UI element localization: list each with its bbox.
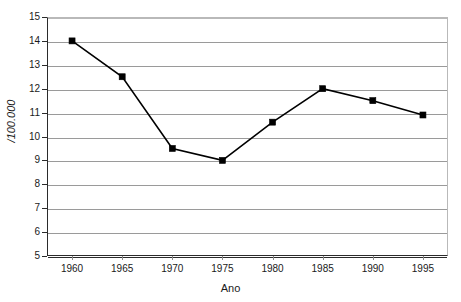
data-point-marker <box>370 98 376 104</box>
y-tick-label: 7 <box>16 203 40 213</box>
y-tick-label: 5 <box>16 251 40 261</box>
series-markers <box>69 38 426 163</box>
x-axis-title: Ano <box>0 282 461 294</box>
x-tick-mark <box>122 256 123 260</box>
x-tick-mark <box>373 256 374 260</box>
y-tick-label: 13 <box>16 60 40 70</box>
x-tick-mark <box>273 256 274 260</box>
series-layer <box>47 17 448 256</box>
y-axis-title: /100.000 <box>5 81 17 161</box>
x-tick-label: 1995 <box>403 263 443 274</box>
data-point-marker <box>69 38 75 44</box>
x-tick-label: 1990 <box>353 263 393 274</box>
y-tick-label: 10 <box>16 132 40 142</box>
data-point-marker <box>219 157 225 163</box>
x-tick-label: 1975 <box>202 263 242 274</box>
x-tick-mark <box>222 256 223 260</box>
x-tick-label: 1985 <box>303 263 343 274</box>
line-chart: 56789101112131415 1960196519701975198019… <box>0 0 461 302</box>
x-tick-mark <box>72 256 73 260</box>
x-tick-label: 1970 <box>152 263 192 274</box>
y-tick-label: 14 <box>16 36 40 46</box>
y-tick-label: 6 <box>16 227 40 237</box>
data-point-marker <box>169 145 175 151</box>
x-tick-label: 1960 <box>52 263 92 274</box>
data-point-marker <box>420 112 426 118</box>
y-tick-label: 8 <box>16 179 40 189</box>
data-point-marker <box>119 74 125 80</box>
x-tick-mark <box>172 256 173 260</box>
y-tick-label: 15 <box>16 12 40 22</box>
y-tick-label: 9 <box>16 155 40 165</box>
y-tick-label: 12 <box>16 84 40 94</box>
data-point-marker <box>320 86 326 92</box>
x-tick-mark <box>323 256 324 260</box>
y-tick-mark <box>42 256 47 257</box>
x-tick-label: 1965 <box>102 263 142 274</box>
x-tick-mark <box>423 256 424 260</box>
x-tick-label: 1980 <box>253 263 293 274</box>
data-point-marker <box>270 119 276 125</box>
y-tick-label: 11 <box>16 108 40 118</box>
gridline <box>48 257 447 258</box>
